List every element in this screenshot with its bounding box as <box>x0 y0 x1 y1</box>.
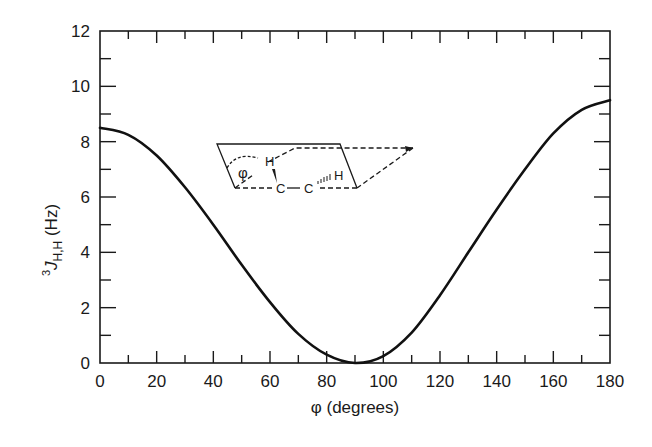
y-tick-label: 12 <box>71 22 90 41</box>
inset-h-left: H <box>265 154 274 169</box>
x-axis-tick-labels: 020406080100120140160180 <box>95 372 624 391</box>
karplus-curve <box>100 100 610 363</box>
x-tick-label: 180 <box>596 372 624 391</box>
y-tick-label: 6 <box>81 188 90 207</box>
y-tick-label: 0 <box>81 354 90 373</box>
inset-c-left: C <box>276 181 285 196</box>
y-tick-label: 8 <box>81 133 90 152</box>
inset-phi-label: φ <box>238 164 248 181</box>
x-tick-label: 20 <box>147 372 166 391</box>
y-tick-label: 10 <box>71 77 90 96</box>
x-axis-ticks <box>128 31 581 363</box>
y-tick-label: 2 <box>81 299 90 318</box>
x-tick-label: 80 <box>317 372 336 391</box>
inset-h-right: H <box>334 168 343 183</box>
x-tick-label: 120 <box>426 372 454 391</box>
svg-text:3JH,H (Hz): 3JH,H (Hz) <box>40 204 65 276</box>
x-tick-label: 160 <box>539 372 567 391</box>
x-tick-label: 0 <box>95 372 104 391</box>
x-tick-label: 40 <box>204 372 223 391</box>
inset-c-right: C <box>304 181 313 196</box>
inset-labels: φ H C C H <box>238 154 343 196</box>
y-axis-label: 3JH,H (Hz) <box>40 204 65 276</box>
x-axis-label: φ (degrees) <box>311 398 400 417</box>
y-label-unit: (Hz) <box>42 204 61 241</box>
karplus-chart: 020406080100120140160180 024681012 φ (de… <box>0 0 652 447</box>
hashed-bond <box>318 174 330 184</box>
y-tick-label: 4 <box>81 243 90 262</box>
y-axis-tick-labels: 024681012 <box>71 22 90 373</box>
x-tick-label: 100 <box>369 372 397 391</box>
y-label-subscript: H,H <box>51 241 65 262</box>
x-tick-label: 60 <box>261 372 280 391</box>
plot-frame <box>100 31 610 363</box>
y-label-main: J <box>42 261 61 271</box>
y-axis-ticks <box>100 59 610 336</box>
x-tick-label: 140 <box>482 372 510 391</box>
